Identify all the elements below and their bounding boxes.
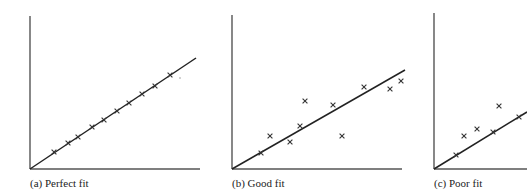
data-point-x-marker	[388, 87, 393, 92]
data-point-x-marker	[475, 127, 480, 132]
data-point-x-marker	[462, 134, 467, 139]
caption-good-fit: (b) Good fit	[232, 177, 285, 189]
data-point-x-marker	[340, 134, 345, 139]
data-point-x-marker	[140, 92, 145, 97]
data-point-x-marker	[115, 109, 120, 114]
data-point-x-marker	[517, 115, 522, 120]
data-point-x-marker	[362, 85, 367, 90]
fit-line	[232, 70, 405, 169]
stray-mark	[179, 77, 181, 79]
data-point-x-marker	[127, 101, 132, 106]
data-point-x-marker	[298, 124, 303, 129]
data-point-x-marker	[288, 140, 293, 145]
fit-line	[434, 112, 527, 169]
data-point-x-marker	[303, 99, 308, 104]
caption-perfect-fit: (a) Perfect fit	[30, 177, 89, 189]
data-point-x-marker	[331, 103, 336, 108]
panel-good-fit	[232, 15, 405, 169]
fit-comparison-figure	[0, 0, 527, 195]
data-point-x-marker	[399, 79, 404, 84]
caption-poor-fit: (c) Poor fit	[434, 177, 482, 189]
panel-poor-fit	[434, 13, 527, 169]
data-point-x-marker	[76, 135, 81, 140]
data-point-x-marker	[268, 134, 273, 139]
panel-perfect-fit	[30, 16, 200, 169]
data-point-x-marker	[497, 104, 502, 109]
